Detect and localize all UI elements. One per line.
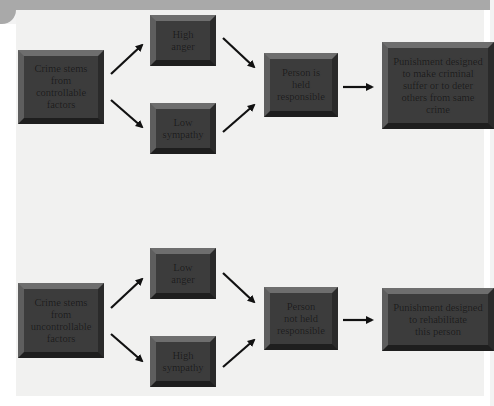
top-outcome-box: Punishment designed to make criminal suf… <box>382 42 494 129</box>
top-emotion-1-box: High anger <box>150 15 216 66</box>
bottom-emotion-1-label: Low anger <box>171 262 194 286</box>
bottom-outcome-box: Punishment designed to rehabilitate this… <box>382 288 494 351</box>
bottom-emotion-2-box: High sympathy <box>150 336 216 387</box>
top-emotion-2-box: Low sympathy <box>150 103 216 154</box>
bottom-emotion-2-label: High sympathy <box>163 350 204 374</box>
arrow-icon <box>223 38 254 67</box>
bottom-emotion-1-box: Low anger <box>150 248 216 299</box>
bottom-judgment-label: Person not held responsible <box>277 301 325 337</box>
top-judgment-box: Person is held responsible <box>264 53 338 117</box>
bottom-outcome-label: Punishment designed to rehabilitate this… <box>393 302 483 338</box>
top-cause-box: Crime stems from controllable factors <box>18 50 104 124</box>
arrow-icon <box>111 279 142 308</box>
arrow-icon <box>111 100 142 127</box>
arrow-icon <box>111 334 142 361</box>
arrow-icon <box>111 45 142 74</box>
bottom-judgment-box: Person not held responsible <box>264 287 338 350</box>
bottom-cause-box: Crime stems from uncontrollable factors <box>18 283 104 358</box>
top-emotion-1-label: High anger <box>171 29 194 53</box>
arrow-icon <box>223 273 254 302</box>
bottom-cause-label: Crime stems from uncontrollable factors <box>31 297 92 345</box>
arrow-icon <box>223 105 254 132</box>
top-outcome-label: Punishment designed to make criminal suf… <box>393 56 483 116</box>
arrow-icon <box>223 340 254 367</box>
top-emotion-2-label: Low sympathy <box>163 117 204 141</box>
top-cause-label: Crime stems from controllable factors <box>35 63 88 111</box>
top-judgment-label: Person is held responsible <box>277 67 325 103</box>
